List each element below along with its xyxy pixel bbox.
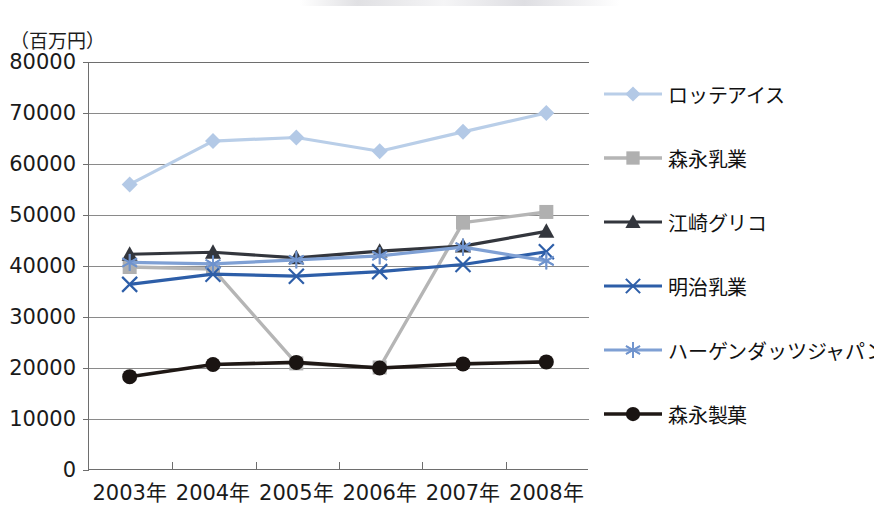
data-point-triangle (538, 223, 554, 237)
legend-item-6[interactable]: 森永製菓 (604, 382, 872, 446)
data-point-circle (539, 354, 554, 369)
y-axis-tick-label: 20000 (9, 356, 76, 380)
legend-label: 森永製菓 (668, 400, 747, 429)
data-point-square (456, 216, 470, 230)
legend-marker-triangle-icon (604, 212, 662, 232)
x-axis-tick-label: 2004年 (176, 476, 250, 506)
data-point-circle (456, 356, 471, 371)
series-line (130, 231, 547, 258)
legend-marker-asterisk-icon (604, 340, 662, 360)
x-axis-tick-label: 2006年 (342, 476, 416, 506)
legend-item-3[interactable]: 江崎グリコ (604, 190, 872, 254)
data-point-circle (372, 361, 387, 376)
y-axis-tick-label: 50000 (9, 203, 76, 227)
data-point-circle (122, 369, 137, 384)
series-line (130, 362, 547, 377)
y-axis-tick (83, 470, 89, 471)
y-axis-tick-label: 60000 (9, 152, 76, 176)
series-circle (122, 354, 554, 384)
data-point-square (626, 151, 639, 164)
x-axis-tick-label: 2005年 (259, 476, 333, 506)
data-point-circle (206, 357, 221, 372)
data-point-diamond (205, 133, 221, 149)
legend-item-2[interactable]: 森永乳業 (604, 126, 872, 190)
legend-marker-x-icon (604, 276, 662, 296)
series-layer (88, 62, 588, 470)
chart-root: （百万円） 8000070000600005000040000300002000… (0, 0, 874, 517)
legend-label: ハーゲンダッツジャパン (668, 336, 874, 365)
y-axis-tick-label: 30000 (9, 305, 76, 329)
legend-marker-diamond-icon (604, 84, 662, 104)
series-line (130, 212, 547, 368)
legend-item-1[interactable]: ロッテアイス (604, 62, 872, 126)
x-axis-tick-label: 2007年 (426, 476, 500, 506)
y-axis-tick-label: 80000 (9, 50, 76, 74)
data-point-circle (289, 355, 304, 370)
legend-label: ロッテアイス (668, 80, 785, 109)
legend-item-4[interactable]: 明治乳業 (604, 254, 872, 318)
legend-label: 明治乳業 (668, 272, 747, 301)
data-point-circle (626, 407, 640, 421)
legend-label: 森永乳業 (668, 144, 747, 173)
legend-marker-square-icon (604, 148, 662, 168)
scan-artifact (300, 0, 620, 6)
data-point-diamond (372, 143, 388, 159)
series-square (123, 205, 554, 375)
chart-legend: ロッテアイス森永乳業江崎グリコ明治乳業ハーゲンダッツジャパン森永製菓 (604, 62, 872, 446)
series-diamond (122, 105, 555, 192)
y-axis-tick-label: 10000 (9, 407, 76, 431)
y-axis-tick-label: 70000 (9, 101, 76, 125)
legend-item-5[interactable]: ハーゲンダッツジャパン (604, 318, 872, 382)
data-point-diamond (288, 129, 304, 145)
x-axis-tick-label: 2008年 (509, 476, 583, 506)
legend-marker-circle-icon (604, 404, 662, 424)
y-axis-unit-label: （百万円） (10, 26, 105, 53)
legend-label: 江崎グリコ (668, 208, 767, 237)
series-line (130, 113, 547, 184)
data-point-square (539, 205, 553, 219)
data-point-diamond (625, 86, 640, 101)
y-axis-tick-label: 0 (63, 458, 76, 482)
y-axis-tick-label: 40000 (9, 254, 76, 278)
data-point-diamond (455, 124, 471, 140)
data-point-diamond (538, 105, 554, 121)
x-axis-tick-label: 2003年 (92, 476, 166, 506)
data-point-diamond (122, 176, 138, 192)
